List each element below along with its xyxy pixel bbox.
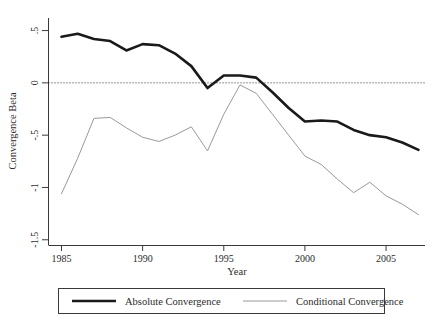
- y-tick-label: .5: [29, 27, 40, 34]
- y-tick-label: -1: [29, 183, 40, 191]
- y-tick-label: -.5: [29, 130, 40, 141]
- x-tick-label: 1990: [133, 253, 153, 264]
- convergence-beta-chart: .50-.5-1-1.5 19851990199520002005 Conver…: [0, 0, 437, 322]
- chart-background: [0, 0, 437, 322]
- x-tick-label: 1985: [51, 253, 71, 264]
- legend-label-conditional-convergence: Conditional Convergence: [296, 296, 404, 307]
- y-tick-label: -1.5: [29, 232, 40, 248]
- x-tick-label: 1995: [214, 253, 234, 264]
- x-axis-title: Year: [227, 266, 247, 277]
- y-axis-title: Convergence Beta: [7, 92, 18, 169]
- chart-canvas: .50-.5-1-1.5 19851990199520002005 Conver…: [0, 0, 437, 322]
- legend-label-absolute-convergence: Absolute Convergence: [125, 296, 221, 307]
- x-tick-label: 2000: [295, 253, 315, 264]
- y-tick-label: 0: [29, 80, 40, 85]
- x-tick-label: 2005: [376, 253, 396, 264]
